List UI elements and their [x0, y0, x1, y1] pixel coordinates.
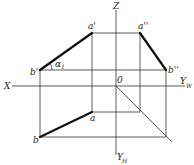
- angle-subscript: 1: [61, 63, 65, 70]
- origin-label: 0: [117, 75, 123, 85]
- segment-side-view: [140, 33, 166, 70]
- segment-front-view: [40, 33, 92, 70]
- point-a-side-label: a'': [138, 21, 148, 31]
- x-axis-label: X: [3, 81, 11, 91]
- projection-diagram: Z X 0 Y W Y H a' b' a'' b'' a b α 1: [0, 0, 194, 165]
- z-axis-label: Z: [112, 1, 120, 11]
- point-a-top-label: a: [90, 113, 95, 123]
- point-a-front-label: a': [88, 21, 96, 31]
- point-b-side-label: b'': [168, 65, 179, 75]
- segment-top-view: [40, 112, 92, 137]
- yw-axis-subscript: W: [186, 82, 193, 89]
- 45-degree-line: [116, 86, 172, 142]
- point-b-top-label: b: [33, 135, 39, 145]
- yh-axis-subscript: H: [121, 157, 128, 164]
- angle-arc: [50, 63, 52, 70]
- point-b-front-label: b': [30, 67, 38, 77]
